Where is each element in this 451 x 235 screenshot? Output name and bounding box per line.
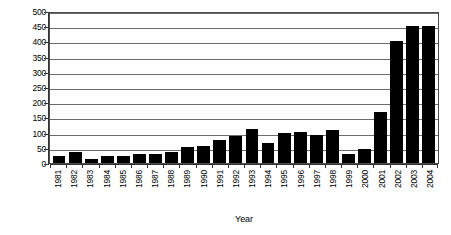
x-axis-title: Year [49,214,439,224]
y-axis-tick-mark [44,58,49,59]
bar[interactable] [85,159,98,163]
bar-slot [405,13,421,163]
bars-container [50,13,438,163]
x-axis-tick-label: 2004 [426,170,435,188]
y-axis-tick-label: 100 [20,129,46,138]
bar[interactable] [69,152,82,163]
bar-slot [340,13,356,163]
x-label-slot: 2000 [357,168,373,208]
bar[interactable] [229,136,242,163]
bar-slot [147,13,163,163]
bar[interactable] [197,146,210,163]
bar-slot [389,13,405,163]
x-label-slot: 1983 [82,168,98,208]
x-axis-tick-label: 2001 [377,170,386,188]
bar-slot [212,13,228,163]
x-axis-tick-label: 2003 [409,170,418,188]
x-axis-tick-label: 1981 [54,170,63,188]
bar[interactable] [246,129,259,163]
bar[interactable] [213,140,226,163]
x-label-slot: 1997 [309,168,325,208]
bar-slot [373,13,389,163]
x-axis-tick-labels: 1981198219831984198519861987198819891990… [49,168,439,208]
x-axis-tick-label: 1987 [151,170,160,188]
bar-slot [244,13,260,163]
bar-slot [99,13,115,163]
y-axis-tick-mark [44,118,49,119]
x-label-slot: 1988 [163,168,179,208]
x-axis-tick-label: 1993 [248,170,257,188]
y-axis-tick-label: 0 [20,160,46,169]
bar[interactable] [53,156,66,164]
bar[interactable] [101,156,114,163]
x-axis-tick-label: 1984 [102,170,111,188]
x-label-slot: 1992 [228,168,244,208]
bar-slot [196,13,212,163]
bar[interactable] [278,133,291,163]
x-axis-tick-label: 1995 [280,170,289,188]
bar-slot [180,13,196,163]
x-axis-tick-label: 1998 [329,170,338,188]
bar[interactable] [310,135,323,164]
x-axis-tick-label: 1996 [296,170,305,188]
x-label-slot: 1996 [293,168,309,208]
y-axis-tick-label: 450 [20,23,46,32]
plot-area [49,12,439,164]
x-label-slot: 1993 [244,168,260,208]
bar[interactable] [390,41,403,163]
x-axis-tick-label: 1982 [70,170,79,188]
bar-slot [115,13,131,163]
x-label-slot: 1991 [212,168,228,208]
y-axis-tick-label: 250 [20,84,46,93]
x-axis-tick-label: 1991 [215,170,224,188]
x-label-slot: 1989 [179,168,195,208]
y-axis-tick-label: 300 [20,69,46,78]
bar[interactable] [422,26,435,163]
y-axis-tick-mark [44,88,49,89]
x-label-slot: 1995 [276,168,292,208]
x-axis-tick-label: 2002 [393,170,402,188]
x-label-slot: 2001 [373,168,389,208]
x-axis-tick-label: 1992 [231,170,240,188]
bar[interactable] [294,132,307,164]
x-axis-tick-label: 1999 [345,170,354,188]
bar-slot [51,13,67,163]
bar[interactable] [358,149,371,163]
bar-slot [356,13,372,163]
x-label-slot: 2003 [406,168,422,208]
bar-slot [260,13,276,163]
bar[interactable] [406,26,419,163]
x-label-slot: 1990 [196,168,212,208]
bar[interactable] [342,154,355,163]
bar[interactable] [165,152,178,163]
x-axis-tick-label: 1989 [183,170,192,188]
x-label-slot: 1981 [50,168,66,208]
x-label-slot: 1982 [66,168,82,208]
x-axis-tick-label: 1983 [86,170,95,188]
y-axis-tick-mark [44,134,49,135]
y-axis-tick-label: 350 [20,53,46,62]
y-axis-tick-mark [44,12,49,13]
bar-slot [164,13,180,163]
bar[interactable] [149,154,162,163]
bar[interactable] [262,143,275,163]
bar-slot [292,13,308,163]
bar-slot [324,13,340,163]
bar[interactable] [374,112,387,163]
x-axis-tick-label: 1985 [118,170,127,188]
y-axis-tick-labels: 050100150200250300350400450500 [20,12,46,164]
y-axis-tick-mark [44,149,49,150]
y-axis-tick-label: 200 [20,99,46,108]
bar-slot [308,13,324,163]
y-axis-tick-mark [44,103,49,104]
bar-slot [276,13,292,163]
x-axis-tick-label: 1986 [134,170,143,188]
bar[interactable] [181,147,194,163]
bar-slot [83,13,99,163]
bar-slot [67,13,83,163]
y-axis-tick-mark [44,27,49,28]
bar[interactable] [133,154,146,163]
bar[interactable] [117,156,130,163]
bar[interactable] [326,130,339,163]
x-label-slot: 2004 [422,168,438,208]
